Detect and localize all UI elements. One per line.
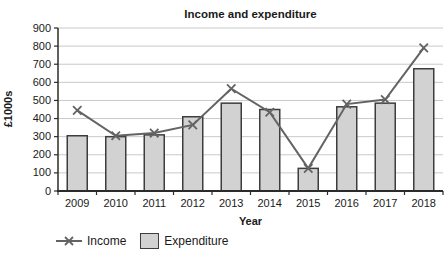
y-tick-label: 0 bbox=[45, 185, 51, 197]
y-tick-label: 900 bbox=[33, 22, 51, 34]
y-tick-label: 800 bbox=[33, 40, 51, 52]
x-tick-label: 2018 bbox=[412, 197, 436, 209]
legend-label-expenditure: Expenditure bbox=[164, 234, 228, 248]
x-tick-label: 2010 bbox=[104, 197, 128, 209]
income-line-marker-icon bbox=[56, 235, 82, 247]
x-tick-label: 2014 bbox=[258, 197, 282, 209]
bar-2011 bbox=[144, 135, 164, 191]
bar-2010 bbox=[106, 137, 126, 191]
x-tick-label: 2012 bbox=[181, 197, 205, 209]
x-tick-label: 2011 bbox=[142, 197, 166, 209]
x-axis-title: Year bbox=[58, 215, 443, 227]
legend-label-income: Income bbox=[87, 234, 126, 248]
legend-item-expenditure: Expenditure bbox=[140, 233, 228, 249]
bar-2012 bbox=[183, 117, 203, 191]
bar-2009 bbox=[67, 136, 87, 191]
expenditure-swatch-icon bbox=[140, 233, 159, 249]
y-tick-label: 600 bbox=[33, 76, 51, 88]
bar-2013 bbox=[221, 103, 241, 191]
x-tick-label: 2015 bbox=[296, 197, 320, 209]
income-line bbox=[77, 48, 424, 168]
y-tick-label: 700 bbox=[33, 58, 51, 70]
y-tick-label: 200 bbox=[33, 148, 51, 160]
x-tick-label: 2017 bbox=[373, 197, 397, 209]
y-tick-label: 300 bbox=[33, 130, 51, 142]
y-tick-label: 400 bbox=[33, 112, 51, 124]
x-tick-label: 2013 bbox=[219, 197, 243, 209]
y-tick-label: 500 bbox=[33, 94, 51, 106]
x-tick-label: 2009 bbox=[65, 197, 89, 209]
legend-item-income: Income bbox=[56, 234, 126, 248]
bar-2015 bbox=[298, 168, 318, 191]
plot-area: 0100200300400500600700800900200920102011… bbox=[0, 0, 446, 232]
y-tick-label: 100 bbox=[33, 166, 51, 178]
bar-2017 bbox=[375, 103, 395, 191]
legend: Income Expenditure bbox=[56, 233, 228, 249]
bar-2016 bbox=[337, 107, 357, 191]
bar-2018 bbox=[414, 69, 434, 191]
chart-page: { "chart_data": { "type": "bar+line", "t… bbox=[0, 0, 446, 268]
x-tick-label: 2016 bbox=[335, 197, 359, 209]
